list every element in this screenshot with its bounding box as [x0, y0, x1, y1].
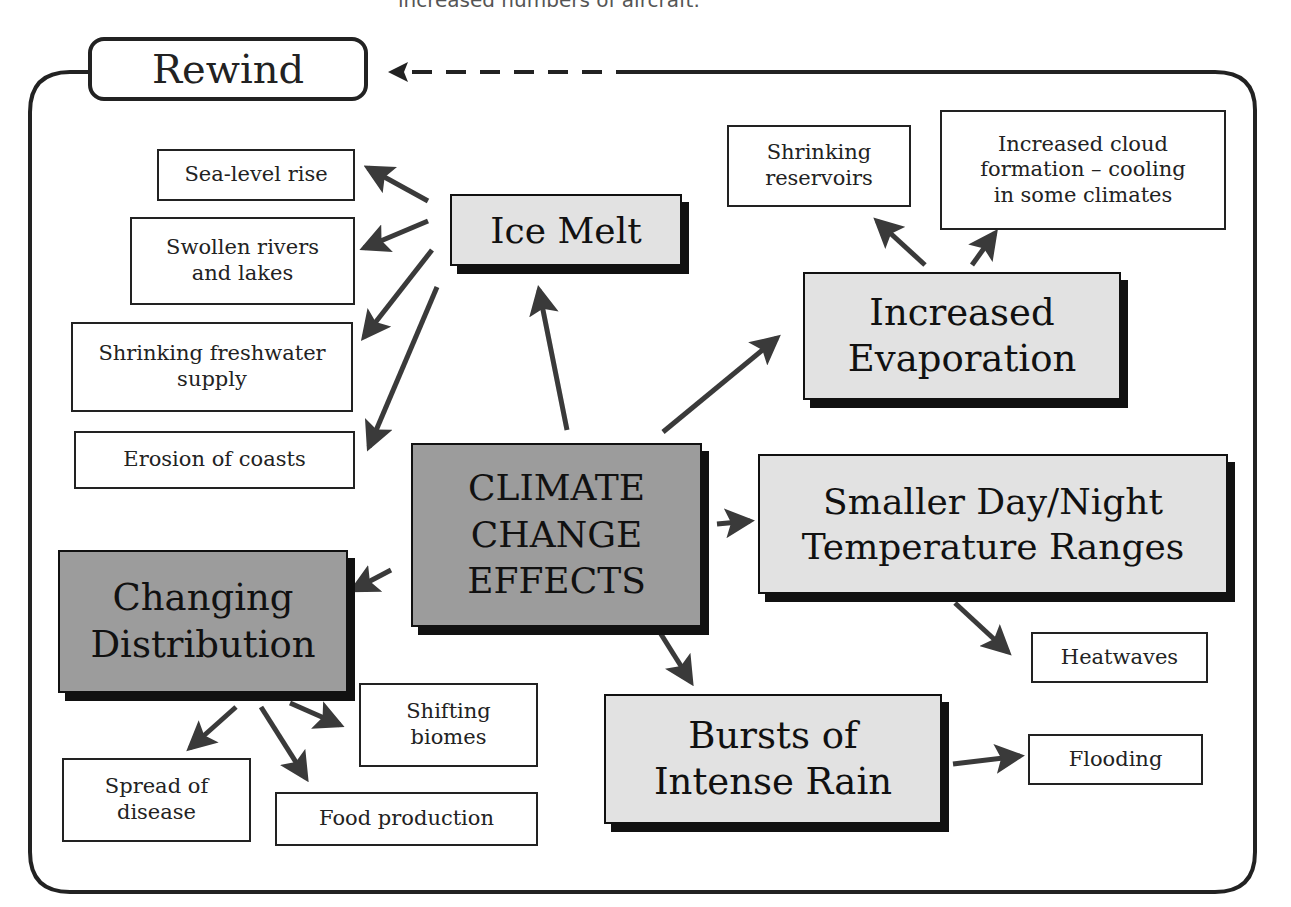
effect-label: Food production: [319, 806, 494, 832]
node-climate-change-effects: CLIMATE CHANGE EFFECTS: [411, 443, 702, 627]
rewind-label: Rewind: [152, 46, 304, 92]
effect-label: Swollen rivers and lakes: [144, 235, 341, 286]
effect-shrinking-freshwater: Shrinking freshwater supply: [71, 322, 353, 412]
node-bursts-of-intense-rain: Bursts of Intense Rain: [604, 694, 942, 824]
effect-label-line: formation – cooling: [980, 157, 1186, 183]
effect-label-line: biomes: [406, 725, 491, 751]
effect-shifting-biomes: Shifting biomes: [359, 683, 538, 767]
effect-label: Flooding: [1069, 747, 1163, 773]
effect-label-line: Shifting: [406, 699, 491, 725]
effect-label-line: Spread of: [105, 774, 208, 800]
node-label-line: Temperature Ranges: [802, 524, 1185, 569]
node-smaller-day-night-ranges: Smaller Day/Night Temperature Ranges: [758, 454, 1228, 594]
rewind-button[interactable]: Rewind: [88, 37, 368, 101]
node-label-line: Smaller Day/Night: [802, 479, 1185, 524]
effect-sea-level-rise: Sea-level rise: [157, 149, 355, 201]
effect-swollen-rivers: Swollen rivers and lakes: [130, 217, 355, 305]
node-label-line: Intense Rain: [654, 759, 892, 805]
node-label-line: CLIMATE: [467, 465, 646, 512]
node-label-line: Evaporation: [848, 336, 1077, 382]
effect-label-line: Increased cloud: [980, 132, 1186, 158]
effect-label-line: Shrinking: [765, 140, 873, 166]
effect-label-line: reservoirs: [765, 166, 873, 192]
effect-heatwaves: Heatwaves: [1031, 632, 1208, 683]
effect-label: Erosion of coasts: [123, 447, 305, 473]
effect-label-line: in some climates: [980, 183, 1186, 209]
node-label-line: Increased: [848, 290, 1077, 336]
effect-label: Shrinking freshwater supply: [83, 341, 341, 392]
effect-spread-of-disease: Spread of disease: [62, 758, 251, 842]
effect-label: Sea-level rise: [184, 162, 327, 188]
effect-erosion-of-coasts: Erosion of coasts: [74, 431, 355, 489]
node-ice-melt: Ice Melt: [450, 194, 682, 266]
node-label-line: EFFECTS: [467, 558, 646, 605]
effect-label: Heatwaves: [1061, 645, 1178, 671]
node-label: Ice Melt: [490, 208, 641, 253]
node-label-line: Bursts of: [654, 713, 892, 759]
node-increased-evaporation: Increased Evaporation: [803, 272, 1121, 400]
node-label-line: CHANGE: [467, 512, 646, 559]
effect-shrinking-reservoirs: Shrinking reservoirs: [727, 125, 911, 207]
effect-label-line: disease: [105, 800, 208, 826]
effect-increased-cloud-formation: Increased cloud formation – cooling in s…: [940, 110, 1226, 230]
node-label-line: Distribution: [90, 622, 315, 668]
node-label-line: Changing: [90, 575, 315, 621]
effect-food-production: Food production: [275, 792, 538, 846]
effect-flooding: Flooding: [1028, 734, 1203, 785]
node-changing-distribution: Changing Distribution: [58, 550, 348, 693]
